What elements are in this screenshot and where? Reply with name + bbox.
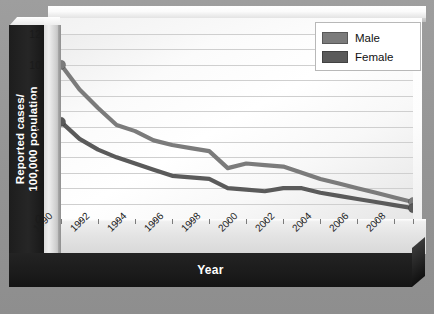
x-axis-tick xyxy=(413,219,414,224)
x-axis-tick xyxy=(283,219,284,224)
x-axis-tick xyxy=(98,219,99,224)
x-axis-tick xyxy=(246,219,247,224)
x-axis-tick xyxy=(357,219,358,224)
x-axis-tick-labels: 1990199219941996199820002002200420062008 xyxy=(61,226,413,256)
legend-item-male: Male xyxy=(322,28,414,47)
y-axis-tick-label: 8 xyxy=(23,90,41,102)
legend-item-female: Female xyxy=(322,47,414,66)
y-axis-tick-label: 6 xyxy=(23,121,41,133)
x-axis-tick xyxy=(61,219,62,224)
x-axis-tick xyxy=(172,219,173,224)
y-axis-tick-label: 12 xyxy=(23,28,41,40)
chart-figure: Reported cases/ 100,000 population 02468… xyxy=(0,0,434,314)
legend-label-male: Male xyxy=(355,32,380,44)
x-axis-tick xyxy=(135,219,136,224)
y-axis-tick-label: 4 xyxy=(23,151,41,163)
legend-label-female: Female xyxy=(355,51,393,63)
chart-legend: Male Female xyxy=(315,22,421,71)
legend-swatch-female-icon xyxy=(322,51,348,63)
x-axis-band-side-face xyxy=(412,237,425,287)
x-axis-tick xyxy=(320,219,321,224)
y-axis-tick-label: 2 xyxy=(23,182,41,194)
series-paths xyxy=(61,65,413,208)
x-axis-tick xyxy=(209,219,210,224)
series-line-male xyxy=(61,65,413,202)
y-axis-tick-labels: 024681012 xyxy=(19,34,41,219)
y-axis-tick-label: 10 xyxy=(23,59,41,71)
legend-swatch-male-icon xyxy=(322,32,348,44)
x-axis-title: Year xyxy=(9,253,412,287)
frame-top-ledge xyxy=(48,6,426,18)
x-axis-tick xyxy=(394,219,395,224)
